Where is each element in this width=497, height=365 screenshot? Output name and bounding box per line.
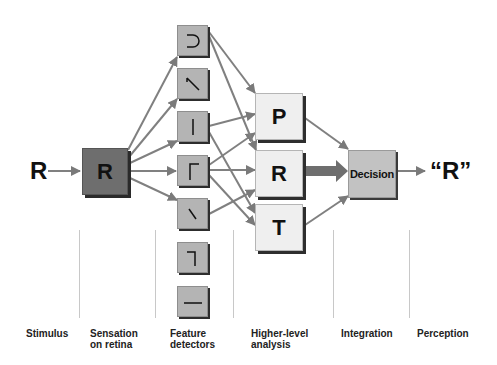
stage-label-stimulus: Stimulus	[26, 328, 68, 339]
letter-box-p: P	[255, 93, 303, 140]
decision-box: Decision	[348, 150, 396, 198]
decision-label: Decision	[350, 168, 394, 180]
stage-divider	[155, 230, 156, 318]
stage-divider	[79, 230, 80, 318]
stimulus-letter: R	[30, 159, 47, 183]
vertical-line-icon	[183, 117, 203, 137]
stage-divider	[409, 230, 410, 318]
horizontal-line-icon	[182, 292, 204, 312]
feature-detector-corner-left	[177, 155, 208, 186]
letter-r: R	[271, 161, 287, 187]
corner-top-left-icon	[183, 161, 203, 181]
corner-top-right-icon	[183, 248, 203, 268]
letter-p: P	[272, 104, 287, 130]
stage-label-higher: Higher-levelanalysis	[251, 328, 308, 350]
stage-label-sensation: Sensationon retina	[90, 328, 138, 350]
feature-detector-vertical	[177, 111, 208, 142]
feature-detector-horizontal	[177, 286, 208, 317]
feature-detector-curve	[177, 25, 208, 56]
stage-label-perception: Perception	[417, 328, 469, 339]
perception-output: “R”	[430, 159, 471, 183]
letter-box-t: T	[255, 204, 303, 251]
letter-box-r: R	[255, 150, 303, 197]
letter-t: T	[272, 215, 285, 241]
feature-detector-diagonal	[177, 68, 208, 99]
feature-detector-corner-right	[177, 242, 208, 273]
stage-label-feature: Featuredetectors	[170, 328, 215, 350]
feature-detector-backslash	[177, 198, 208, 229]
retina-letter: R	[97, 159, 113, 185]
stage-divider	[333, 230, 334, 318]
retina-box: R	[82, 148, 128, 195]
stage-label-integration: Integration	[341, 328, 393, 339]
diagonal-down-icon	[183, 74, 203, 94]
thick-arrow-icon	[304, 160, 348, 182]
curve-right-icon	[183, 31, 203, 51]
stage-divider	[233, 230, 234, 318]
backslash-icon	[183, 204, 203, 224]
connection-arrows	[0, 0, 497, 365]
